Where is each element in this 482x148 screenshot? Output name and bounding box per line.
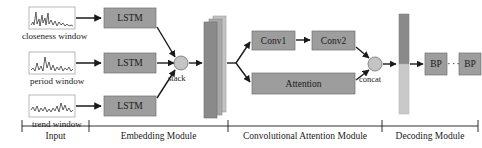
- input-window-caption-trend: trend window: [32, 119, 82, 129]
- bp-box-last: [459, 53, 481, 75]
- input-window-period: [29, 52, 75, 74]
- arrow-tensor-to-attention: [236, 63, 250, 82]
- stack-op-label: stack: [168, 73, 185, 83]
- axis-label-decoding-module: Decoding Module: [382, 131, 478, 141]
- concat-merge-node: [368, 57, 382, 71]
- architecture-diagram: closeness window period window trend win…: [0, 0, 482, 148]
- stack-merge-node: [174, 56, 188, 70]
- lstm-box-trend: [104, 96, 156, 116]
- concat-feature-bar: [399, 14, 409, 114]
- lstm-box-period: [104, 53, 156, 73]
- concat-op-label: concat: [359, 74, 381, 84]
- arrow-conv2-to-concat: [356, 47, 369, 58]
- arrow-lstm-closeness-to-stack: [157, 27, 175, 57]
- bp-box-first: [425, 53, 447, 75]
- input-window-caption-period: period window: [30, 76, 84, 86]
- lstm-box-closeness: [104, 8, 156, 28]
- input-window-caption-closeness: closeness window: [22, 31, 87, 41]
- stacked-feature-tensor: [204, 16, 226, 118]
- input-window-trend: [29, 95, 75, 117]
- axis-label-input: Input: [22, 131, 89, 141]
- axis-label-embedding-module: Embedding Module: [89, 131, 228, 141]
- axis-label-convolutional-attention-module: Convolutional Attention Module: [228, 131, 382, 141]
- input-window-closeness: [29, 7, 75, 29]
- conv1-box: [252, 31, 295, 50]
- bp-ellipsis: ···: [447, 57, 459, 69]
- arrow-tensor-to-conv1: [236, 42, 250, 63]
- conv2-box: [312, 31, 355, 50]
- attention-box: [252, 73, 355, 94]
